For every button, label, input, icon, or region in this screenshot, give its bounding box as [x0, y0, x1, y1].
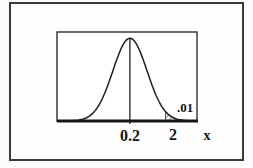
tail-area-label: .01: [177, 100, 193, 115]
critical-tick-label: 2: [169, 126, 177, 143]
figure-canvas: 0.2 2 x .01: [0, 0, 253, 168]
distribution-figure: 0.2 2 x .01: [0, 0, 253, 168]
mean-tick-label: 0.2: [120, 127, 140, 144]
x-axis-label: x: [204, 128, 211, 143]
